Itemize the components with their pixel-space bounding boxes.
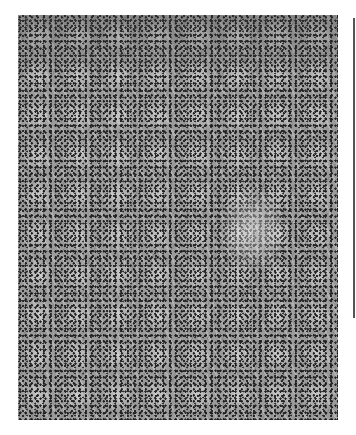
- tissue-light-region: [218, 185, 288, 275]
- micrograph-image: [18, 15, 338, 420]
- tissue-dark-region: [18, 15, 338, 85]
- page-edge-divider: [353, 18, 355, 318]
